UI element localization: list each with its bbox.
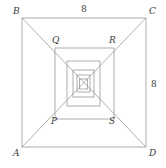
- vertex-label-C: C: [149, 7, 156, 16]
- side-length-label-right: 8: [151, 80, 157, 89]
- geometry-figure: B C D A Q R S P 8 8: [0, 0, 166, 168]
- vertex-label-B: B: [13, 7, 20, 16]
- side-length-label-top: 8: [81, 5, 87, 14]
- vertex-label-R: R: [109, 36, 116, 45]
- vertex-label-A: A: [13, 149, 20, 158]
- vertex-label-Q: Q: [52, 36, 59, 45]
- figure-canvas: [0, 0, 166, 168]
- vertex-label-S: S: [109, 117, 115, 126]
- vertex-label-D: D: [149, 149, 156, 158]
- diagonals-group: [22, 18, 146, 147]
- vertex-label-P: P: [51, 117, 57, 126]
